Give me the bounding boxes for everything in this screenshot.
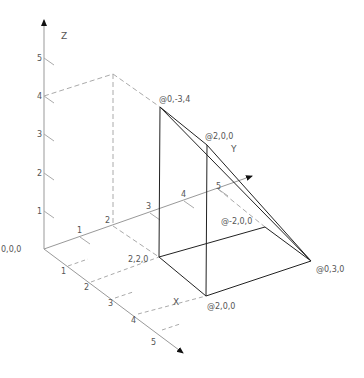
x-axis <box>44 249 183 353</box>
y-end-label: @0,3,0 <box>316 265 344 274</box>
wireframe-solid <box>159 107 311 296</box>
z-tick-3: 3 <box>37 130 42 139</box>
x-tick-5: 5 <box>151 338 156 347</box>
bottom-front-label: @2,0,0 <box>207 302 235 311</box>
z-tick-5: 5 <box>37 54 42 63</box>
3d-diagram: 1 2 3 4 5 Z 1 2 3 4 5 Y 1 2 3 4 5 X <box>0 0 364 378</box>
y-ticks <box>80 189 228 244</box>
y-axis-label: Y <box>230 144 237 154</box>
base-corner-label: 2,2,0 <box>128 255 148 264</box>
x-tick-1: 1 <box>61 267 66 276</box>
z-tick-2: 2 <box>37 169 42 178</box>
x-tick-labels: 1 2 3 4 5 X <box>61 267 179 347</box>
y-tick-1: 1 <box>77 226 82 235</box>
z-tick-labels: 1 2 3 4 5 Z <box>37 31 67 216</box>
z-ticks <box>44 58 54 218</box>
back-label: @-2,0,0 <box>221 217 252 226</box>
x-tick-3: 3 <box>108 299 113 308</box>
origin-label: 0,0,0 <box>1 245 21 254</box>
z-axis-label: Z <box>61 31 67 41</box>
x-tick-2: 2 <box>84 283 89 292</box>
x-axis-label: X <box>173 297 179 307</box>
z-tick-1: 1 <box>37 207 42 216</box>
y-tick-4: 4 <box>181 190 186 199</box>
x-tick-4: 4 <box>131 316 136 325</box>
point-labels: 0,0,0 @0,-3,4 @2,0,0 @0,3,0 @-2,0,0 2,2,… <box>1 95 344 311</box>
y-tick-2: 2 <box>105 216 110 225</box>
top-mid-label: @2,0,0 <box>205 132 233 141</box>
y-tick-3: 3 <box>146 202 151 211</box>
apex-label: @0,-3,4 <box>159 95 190 104</box>
z-tick-4: 4 <box>37 92 42 101</box>
